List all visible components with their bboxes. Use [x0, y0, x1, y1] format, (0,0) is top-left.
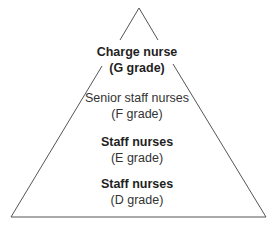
level-title: Charge nurse: [0, 44, 274, 60]
level-staff-nurses-d: Staff nurses (D grade): [0, 176, 274, 208]
level-senior-staff-nurses: Senior staff nurses (F grade): [0, 90, 274, 122]
pyramid-apex-left-edge: [120, 8, 139, 40]
level-staff-nurses-e: Staff nurses (E grade): [0, 134, 274, 166]
level-grade: (G grade): [0, 60, 274, 76]
pyramid-apex-right-edge: [139, 8, 158, 40]
level-grade: (D grade): [0, 192, 274, 208]
level-grade: (F grade): [0, 106, 274, 122]
level-title: Senior staff nurses: [0, 90, 274, 106]
level-title: Staff nurses: [0, 176, 274, 192]
level-grade: (E grade): [0, 150, 274, 166]
level-charge-nurse: Charge nurse (G grade): [0, 44, 274, 76]
level-title: Staff nurses: [0, 134, 274, 150]
